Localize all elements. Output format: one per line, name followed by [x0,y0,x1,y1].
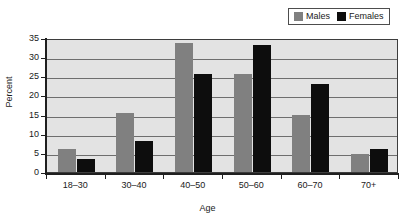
x-tick-label: 50‒60 [221,181,281,190]
bar-group [106,40,165,172]
bar-group [223,40,282,172]
bar-females-4 [311,84,329,172]
bar-males-1 [116,113,134,172]
bar-females-5 [370,149,388,172]
x-tick-mark [46,175,47,179]
bar-group [47,40,106,172]
bars-layer [47,40,397,172]
bar-group [282,40,341,172]
y-axis-title: Percent [4,62,14,122]
bar-females-0 [77,159,95,172]
y-tick-label: 15 [17,111,39,120]
legend-entry-females: Females [337,12,384,21]
bar-males-5 [351,154,369,172]
x-tick-label: 30‒40 [104,181,164,190]
bar-males-0 [58,149,76,172]
x-tick-mark [222,175,223,179]
y-tick-mark [41,77,46,78]
legend-entry-males: Males [294,12,330,21]
x-tick-label: 70+ [339,181,399,190]
plot-area [46,39,398,173]
bar-chart: Males Females 05101520253035 Percent 18‒… [0,0,415,224]
bar-females-1 [135,141,153,172]
y-tick-label: 0 [17,168,39,177]
x-tick-mark [398,175,399,179]
chart-legend: Males Females [288,8,390,25]
x-tick-mark [281,175,282,179]
y-tick-mark [41,154,46,155]
y-tick-label: 10 [17,130,39,139]
bar-females-2 [194,74,212,172]
bar-males-3 [234,74,252,172]
x-tick-label: 40‒50 [163,181,223,190]
legend-label-females: Females [349,12,384,21]
legend-swatch-males-icon [294,12,303,21]
y-tick-mark [41,58,46,59]
y-tick-label: 25 [17,72,39,81]
y-tick-mark [41,96,46,97]
y-tick-label: 20 [17,91,39,100]
y-tick-label: 5 [17,149,39,158]
legend-swatch-females-icon [337,12,346,21]
y-tick-label: 30 [17,53,39,62]
bar-males-4 [292,115,310,172]
x-tick-label: 60‒70 [280,181,340,190]
x-axis-title: Age [0,203,415,213]
x-tick-mark [339,175,340,179]
bar-females-3 [253,45,271,172]
y-tick-mark [41,116,46,117]
x-tick-mark [163,175,164,179]
y-tick-mark [41,39,46,40]
bar-males-2 [175,43,193,172]
y-tick-label: 35 [17,34,39,43]
bar-group [340,40,399,172]
x-tick-mark [105,175,106,179]
bar-group [164,40,223,172]
y-tick-mark [41,135,46,136]
x-tick-label: 18‒30 [45,181,105,190]
legend-label-males: Males [306,12,330,21]
